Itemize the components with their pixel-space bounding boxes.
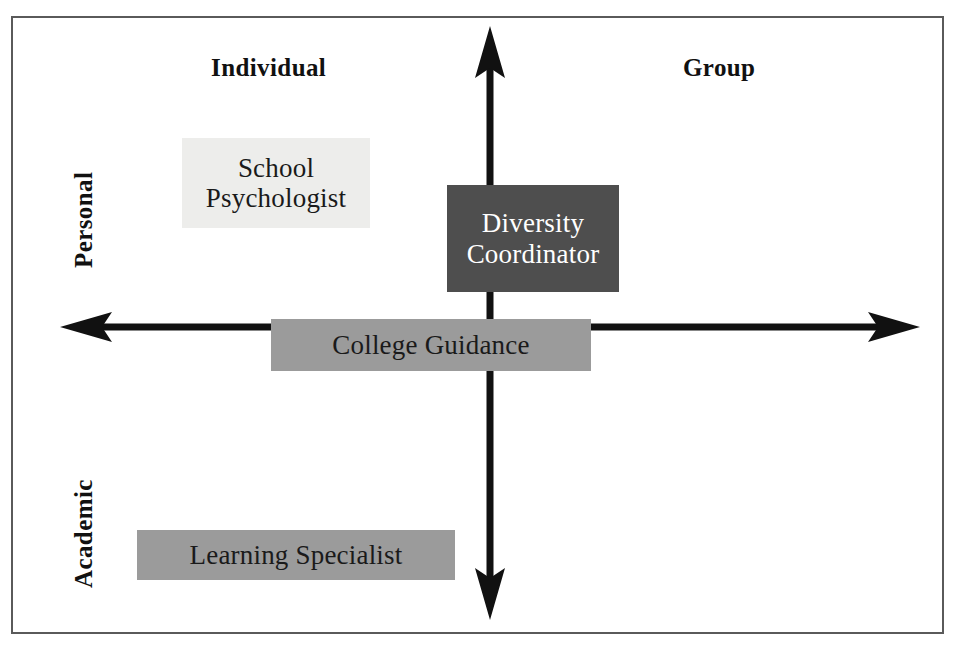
- axis-label-individual: Individual: [211, 54, 326, 82]
- role-box-college-guidance[interactable]: College Guidance: [271, 319, 591, 371]
- role-label-learning-specialist: Learning Specialist: [190, 540, 403, 570]
- axis-label-personal: Personal: [70, 172, 98, 268]
- role-label-diversity-coordinator: Diversity Coordinator: [467, 208, 600, 268]
- role-box-diversity-coordinator[interactable]: Diversity Coordinator: [447, 185, 619, 292]
- axis-label-group: Group: [683, 54, 755, 82]
- role-box-learning-specialist[interactable]: Learning Specialist: [137, 530, 455, 580]
- axis-label-academic: Academic: [70, 479, 98, 588]
- quadrant-diagram-canvas: Individual Group Personal Academic Schoo…: [0, 0, 977, 660]
- role-label-college-guidance: College Guidance: [332, 330, 529, 360]
- role-box-school-psychologist[interactable]: School Psychologist: [182, 138, 370, 228]
- diagram-frame: Individual Group Personal Academic Schoo…: [11, 16, 944, 634]
- role-label-school-psychologist: School Psychologist: [206, 153, 346, 213]
